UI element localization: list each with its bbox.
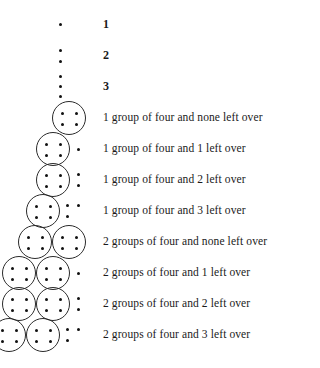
leftover-dots xyxy=(70,256,86,290)
unit-dot-icon xyxy=(11,309,14,312)
unit-dot-icon xyxy=(45,154,48,157)
unit-dot-icon xyxy=(35,340,38,343)
loose-dot-stack xyxy=(53,9,69,40)
unit-dot-icon xyxy=(15,329,18,332)
unit-dot-icon xyxy=(59,174,62,177)
row-caption: 1 xyxy=(103,18,318,31)
quantity-pictogram xyxy=(0,226,86,257)
unit-dot-icon xyxy=(59,143,62,146)
unit-dot-icon xyxy=(77,204,80,207)
row-caption: 1 group of four and 3 left over xyxy=(103,204,318,217)
unit-dot-icon xyxy=(25,309,28,312)
unit-dot-icon xyxy=(59,95,62,98)
group-of-four-circle-icon xyxy=(2,287,36,321)
group-of-four-circle-icon xyxy=(52,101,86,135)
unit-dot-icon xyxy=(59,85,62,88)
group-of-four-circle-icon xyxy=(52,225,86,259)
unit-dot-icon xyxy=(75,123,78,126)
unit-dot-icon xyxy=(49,329,52,332)
unit-dot-icon xyxy=(45,298,48,301)
quantity-pictogram xyxy=(0,40,86,71)
unit-dot-icon xyxy=(59,23,62,26)
unit-dot-icon xyxy=(49,205,52,208)
unit-dot-icon xyxy=(66,328,69,331)
unit-dot-icon xyxy=(61,123,64,126)
quantity-pictogram xyxy=(0,164,86,195)
unit-dot-icon xyxy=(66,215,69,218)
diagram-row: 2 groups of four and 1 left over xyxy=(0,257,320,288)
unit-dot-icon xyxy=(45,185,48,188)
quantity-pictogram xyxy=(0,71,86,102)
unit-dot-icon xyxy=(27,247,30,250)
unit-dot-icon xyxy=(59,75,62,78)
row-caption: 1 group of four and none left over xyxy=(103,111,318,124)
unit-dot-icon xyxy=(75,236,78,239)
unit-dot-icon xyxy=(49,216,52,219)
row-caption: 2 xyxy=(103,49,318,62)
unit-dot-icon xyxy=(49,340,52,343)
group-of-four-circle-icon xyxy=(36,287,70,321)
unit-dot-icon xyxy=(77,297,80,300)
unit-dot-icon xyxy=(77,148,80,151)
unit-dot-icon xyxy=(59,298,62,301)
unit-dot-icon xyxy=(61,247,64,250)
unit-dot-icon xyxy=(25,278,28,281)
row-caption: 1 group of four and 2 left over xyxy=(103,173,318,186)
unit-dot-icon xyxy=(11,278,14,281)
unit-dot-icon xyxy=(59,278,62,281)
unit-dot-icon xyxy=(66,339,69,342)
group-of-four-circle-icon xyxy=(36,132,70,166)
row-caption: 2 groups of four and 1 left over xyxy=(103,266,318,279)
unit-dot-icon xyxy=(75,112,78,115)
quantity-pictogram xyxy=(0,319,86,350)
grouping-diagram: 1231 group of four and none left over1 g… xyxy=(0,0,320,368)
diagram-row: 3 xyxy=(0,71,320,102)
diagram-row: 2 groups of four and none left over xyxy=(0,226,320,257)
unit-dot-icon xyxy=(77,328,80,331)
unit-dot-icon xyxy=(59,267,62,270)
diagram-row: 1 group of four and none left over xyxy=(0,102,320,133)
group-of-four-circle-icon xyxy=(36,256,70,290)
group-of-four-circle-icon xyxy=(2,256,36,290)
unit-dot-icon xyxy=(77,308,80,311)
unit-dot-icon xyxy=(11,298,14,301)
row-caption: 3 xyxy=(103,80,318,93)
unit-dot-icon xyxy=(1,329,4,332)
quantity-pictogram xyxy=(0,133,86,164)
quantity-pictogram xyxy=(0,195,86,226)
unit-dot-icon xyxy=(77,184,80,187)
diagram-row: 1 group of four and 2 left over xyxy=(0,164,320,195)
group-of-four-circle-icon xyxy=(36,163,70,197)
unit-dot-icon xyxy=(41,236,44,239)
unit-dot-icon xyxy=(45,267,48,270)
row-caption: 2 groups of four and 3 left over xyxy=(103,328,318,341)
unit-dot-icon xyxy=(45,309,48,312)
unit-dot-icon xyxy=(61,112,64,115)
unit-dot-icon xyxy=(45,143,48,146)
unit-dot-icon xyxy=(59,60,62,63)
loose-dot-stack xyxy=(53,71,69,102)
quantity-pictogram xyxy=(0,9,86,40)
leftover-dots xyxy=(70,287,86,321)
diagram-row: 2 groups of four and 3 left over xyxy=(0,319,320,350)
unit-dot-icon xyxy=(35,329,38,332)
unit-dot-icon xyxy=(45,278,48,281)
unit-dot-icon xyxy=(25,298,28,301)
group-of-four-circle-icon xyxy=(26,318,60,352)
leftover-dots xyxy=(70,163,86,197)
diagram-row: 2 groups of four and 2 left over xyxy=(0,288,320,319)
row-caption: 2 groups of four and 2 left over xyxy=(103,297,318,310)
group-of-four-circle-icon xyxy=(18,225,52,259)
unit-dot-icon xyxy=(77,272,80,275)
unit-dot-icon xyxy=(41,247,44,250)
unit-dot-icon xyxy=(35,216,38,219)
quantity-pictogram xyxy=(0,102,86,133)
diagram-row: 2 xyxy=(0,40,320,71)
row-caption: 1 group of four and 1 left over xyxy=(103,142,318,155)
group-of-four-circle-icon xyxy=(26,194,60,228)
leftover-dots xyxy=(70,132,86,166)
unit-dot-icon xyxy=(75,247,78,250)
group-of-four-circle-icon xyxy=(0,318,26,352)
diagram-row: 1 group of four and 3 left over xyxy=(0,195,320,226)
unit-dot-icon xyxy=(59,49,62,52)
